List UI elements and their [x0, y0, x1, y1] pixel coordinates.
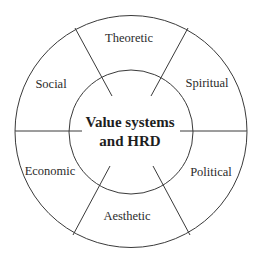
center-label-line1: Value systems: [85, 114, 174, 130]
segment-label-theoretic: Theoretic: [105, 31, 153, 45]
divider-bottom-left: [73, 166, 110, 235]
divider-bottom-right: [153, 166, 190, 235]
segment-label-aesthetic: Aesthetic: [103, 209, 151, 223]
center-label-line2: and HRD: [99, 133, 160, 149]
segment-label-spiritual: Spiritual: [185, 76, 229, 90]
segment-label-economic: Economic: [25, 164, 76, 178]
inner-circle: [69, 70, 193, 194]
divider-top-right: [151, 28, 188, 96]
value-systems-wheel-diagram: Theoretic Spiritual Political Aesthetic …: [0, 0, 254, 263]
segment-label-social: Social: [35, 77, 67, 91]
segment-label-political: Political: [190, 165, 232, 179]
